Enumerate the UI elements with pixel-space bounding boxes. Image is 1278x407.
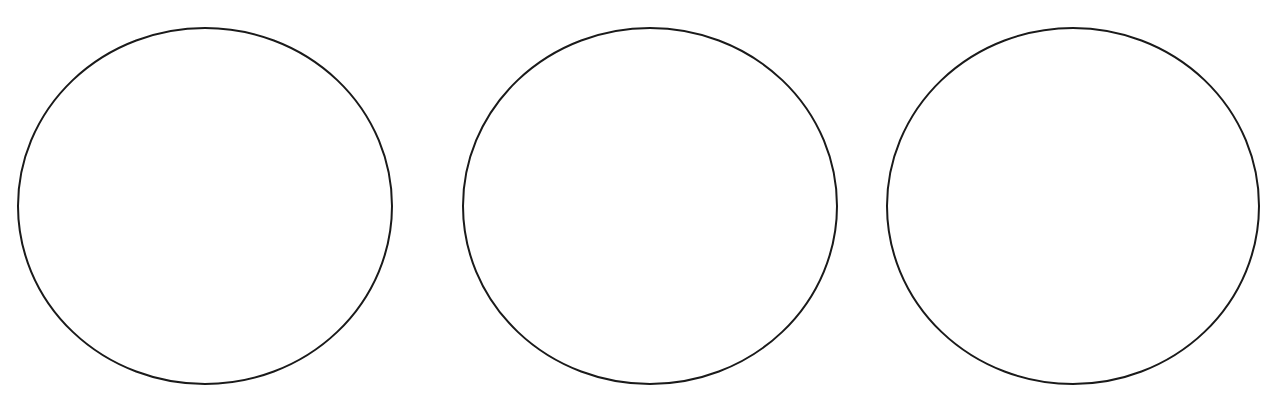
figure-canvas — [0, 0, 1278, 407]
circle-2 — [463, 28, 837, 384]
three-circles-diagram — [0, 0, 1278, 407]
circle-1 — [18, 28, 392, 384]
circle-3 — [887, 28, 1259, 384]
